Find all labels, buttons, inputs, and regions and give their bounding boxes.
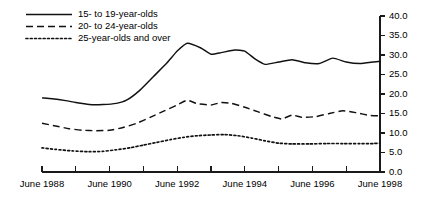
chart-svg: 15- to 19-year-olds 20- to 24-year-olds … (0, 0, 424, 200)
y-axis-tick-label: 20.0 (389, 88, 408, 99)
legend-label-25-and-over: 25-year-olds and over (78, 32, 170, 43)
legend-label-15-to-19: 15- to 19-year-olds (78, 8, 158, 19)
y-axis-tick-label: 35.0 (389, 29, 408, 40)
x-axis-tick-label: June 1994 (223, 178, 267, 189)
unemployment-rate-line-chart: 15- to 19-year-olds 20- to 24-year-olds … (0, 0, 424, 200)
x-axis-tick-label: June 1992 (155, 178, 199, 189)
legend-label-20-to-24: 20- to 24-year-olds (78, 20, 158, 31)
y-axis-tick-label: 25.0 (389, 68, 408, 79)
x-axis-tick-label: June 1996 (290, 178, 334, 189)
y-axis-tick-label: 10.0 (389, 127, 408, 138)
x-axis-tick-label: June 1990 (87, 178, 131, 189)
y-axis-tick-label: 30.0 (389, 49, 408, 60)
y-axis-tick-label: 15.0 (389, 107, 408, 118)
x-axis-tick-label: June 1998 (358, 178, 402, 189)
y-axis-tick-label: 5.0 (389, 146, 402, 157)
x-axis-tick-label: June 1988 (20, 178, 64, 189)
y-axis-tick-label: 0.0 (389, 166, 402, 177)
y-axis-tick-label: 40.0 (389, 10, 408, 21)
